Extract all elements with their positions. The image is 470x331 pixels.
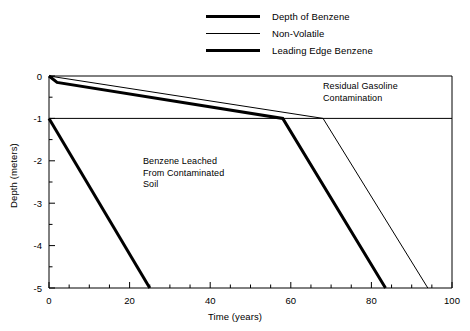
axes-layer [49, 76, 452, 288]
x-tick-label: 20 [124, 295, 135, 306]
annotation-residual-gasoline-contamination: Residual Gasoline Contamination [323, 81, 398, 104]
y-axis-title: Depth (meters) [8, 116, 19, 236]
x-axis-title: Time (years) [0, 311, 470, 322]
y-tick-label: 0 [37, 71, 42, 82]
y-tick-label: -3 [34, 198, 42, 209]
x-tick-label: 0 [46, 295, 51, 306]
y-tick-label: -2 [34, 155, 42, 166]
y-tick-label: -4 [34, 240, 42, 251]
x-tick-label: 100 [444, 295, 460, 306]
y-tick-label: -5 [34, 283, 42, 294]
chart-figure: Depth of Benzene Non-Volatile Leading Ed… [0, 0, 470, 331]
x-tick-label: 60 [286, 295, 297, 306]
y-tick-label: -1 [34, 113, 42, 124]
series-layer [49, 76, 428, 288]
plot-svg: 0204060801000-1-2-3-4-5 [0, 0, 470, 331]
tick-label-layer: 0204060801000-1-2-3-4-5 [34, 71, 460, 307]
annotation-benzene-leached: Benzene Leached From Contaminated Soil [143, 156, 224, 191]
x-tick-label: 40 [205, 295, 216, 306]
x-tick-label: 80 [366, 295, 377, 306]
series-line-non-volatile [49, 76, 428, 288]
series-line-leading-edge-benzene [49, 118, 150, 288]
